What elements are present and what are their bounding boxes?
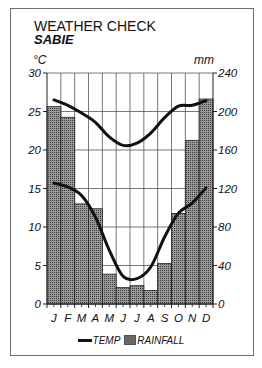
climate-chart: 05101520253004080120160200240JFMAMJJASON…: [0, 0, 262, 368]
left-tick-label: 10: [28, 221, 41, 233]
right-tick-label: 240: [217, 67, 238, 79]
rainfall-bar-M: [102, 274, 116, 304]
rainfall-bar-S: [158, 264, 172, 304]
rainfall-bar-J: [130, 286, 144, 304]
left-tick-label: 0: [35, 298, 42, 310]
month-label: M: [77, 312, 87, 324]
month-label: D: [202, 312, 210, 324]
rainfall-bar-A: [144, 291, 158, 304]
month-label: N: [188, 312, 197, 324]
rainfall-bar-J: [47, 107, 61, 304]
right-tick-label: 160: [218, 144, 238, 156]
rainfall-bar-D: [199, 99, 213, 304]
left-tick-label: 30: [28, 67, 41, 79]
month-label: F: [64, 312, 72, 324]
left-tick-label: 25: [27, 106, 41, 118]
month-label: J: [119, 312, 126, 324]
rainfall-bar-F: [61, 117, 75, 304]
right-tick-label: 80: [218, 221, 231, 233]
right-tick-label: 200: [217, 106, 238, 118]
left-tick-label: 20: [27, 144, 41, 156]
month-label: S: [161, 312, 169, 324]
rainfall-bar-N: [185, 140, 199, 304]
rainfall-bar-J: [116, 288, 130, 304]
right-tick-label: 120: [218, 183, 238, 195]
month-label: J: [50, 312, 57, 324]
rainfall-bar-O: [172, 214, 186, 304]
left-tick-label: 5: [35, 260, 42, 272]
month-label: O: [174, 312, 183, 324]
rainfall-bar-M: [75, 204, 89, 304]
legend: TEMPRAINFALL: [0, 334, 262, 346]
rainfall-legend-swatch: [124, 335, 136, 345]
temp-legend-label: TEMP: [93, 335, 121, 346]
temp-legend-swatch: [78, 339, 92, 342]
left-tick-label: 15: [28, 183, 41, 195]
rainfall-bar-A: [89, 209, 103, 304]
right-tick-label: 0: [218, 298, 225, 310]
month-label: J: [133, 312, 140, 324]
month-label: A: [91, 312, 100, 324]
month-label: A: [146, 312, 155, 324]
rainfall-legend-label: RAINFALL: [137, 335, 184, 346]
month-label: M: [104, 312, 114, 324]
right-tick-label: 40: [218, 260, 231, 272]
